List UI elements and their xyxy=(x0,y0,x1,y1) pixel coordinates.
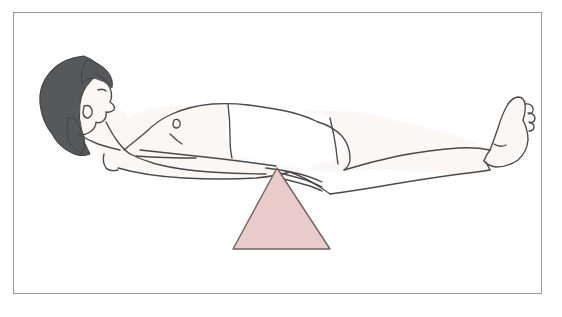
illustration-stage: supine lying pose Pink triangular suppor… xyxy=(0,0,562,317)
wedge-triangle xyxy=(233,168,330,249)
foot-shape xyxy=(484,96,536,166)
figure-group xyxy=(40,56,536,194)
leg-lower-outline xyxy=(330,170,490,194)
supine-pose-illustration xyxy=(0,0,562,317)
